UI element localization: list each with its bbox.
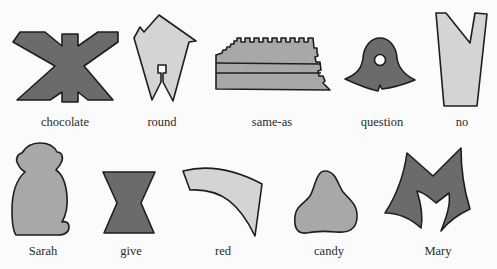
- label-same-as: same-as: [252, 116, 292, 129]
- red-symbol-icon: [183, 168, 262, 236]
- label-round: round: [147, 116, 176, 129]
- label-give: give: [120, 245, 142, 258]
- chocolate-symbol-icon: [13, 32, 118, 102]
- same-as-symbol-icon: [216, 38, 330, 90]
- label-chocolate: chocolate: [41, 116, 89, 129]
- give-symbol-icon: [103, 172, 155, 233]
- candy-symbol-icon: [295, 171, 357, 233]
- round-symbol-icon: [134, 15, 196, 101]
- label-no: no: [456, 116, 469, 129]
- lexigram-diagram: [0, 0, 497, 269]
- label-sarah: Sarah: [29, 245, 57, 258]
- label-mary: Mary: [424, 245, 451, 258]
- sarah-symbol-icon: [12, 143, 69, 235]
- no-symbol-icon: [436, 13, 487, 106]
- question-symbol-icon: [345, 38, 415, 91]
- label-question: question: [361, 116, 403, 129]
- label-red: red: [215, 245, 231, 258]
- mary-symbol-icon: [385, 148, 470, 231]
- label-candy: candy: [314, 245, 344, 258]
